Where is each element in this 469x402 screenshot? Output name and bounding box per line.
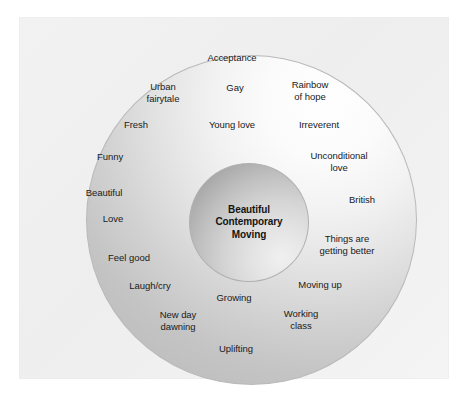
ring-label: Rainbow of hope <box>292 79 329 102</box>
ring-label: Laugh/cry <box>129 280 170 292</box>
ring-label: British <box>349 194 375 206</box>
ring-label: Moving up <box>298 279 341 291</box>
ring-label: Gay <box>226 82 243 94</box>
core-label-line-2: Contemporary <box>215 216 282 229</box>
ring-label: Feel good <box>108 252 150 264</box>
ring-label: New day dawning <box>160 309 197 332</box>
ring-label: Funny <box>97 151 123 163</box>
inner-circle: Beautiful Contemporary Moving <box>189 163 309 282</box>
core-label-line-3: Moving <box>232 229 266 242</box>
ring-label: Fresh <box>124 119 148 131</box>
ring-label: Irreverent <box>299 119 339 131</box>
ring-label: Working class <box>284 308 318 331</box>
concentric-circles-figure: Beautiful Contemporary Moving Acceptance… <box>0 0 469 402</box>
ring-label: Uplifting <box>219 343 253 355</box>
ring-label: Beautiful <box>86 187 123 199</box>
core-label-line-1: Beautiful <box>228 204 270 217</box>
ring-label: Growing <box>216 292 251 304</box>
figure-background-panel: Beautiful Contemporary Moving Acceptance… <box>19 17 449 379</box>
ring-label: Urban fairytale <box>147 81 180 104</box>
ring-label: Love <box>103 213 123 225</box>
ring-label: Young love <box>209 119 255 131</box>
core-label: Beautiful Contemporary Moving <box>190 164 308 281</box>
ring-label: Unconditional love <box>311 150 368 173</box>
ring-label: Things are getting better <box>320 233 375 256</box>
ring-label: Acceptance <box>207 52 256 64</box>
